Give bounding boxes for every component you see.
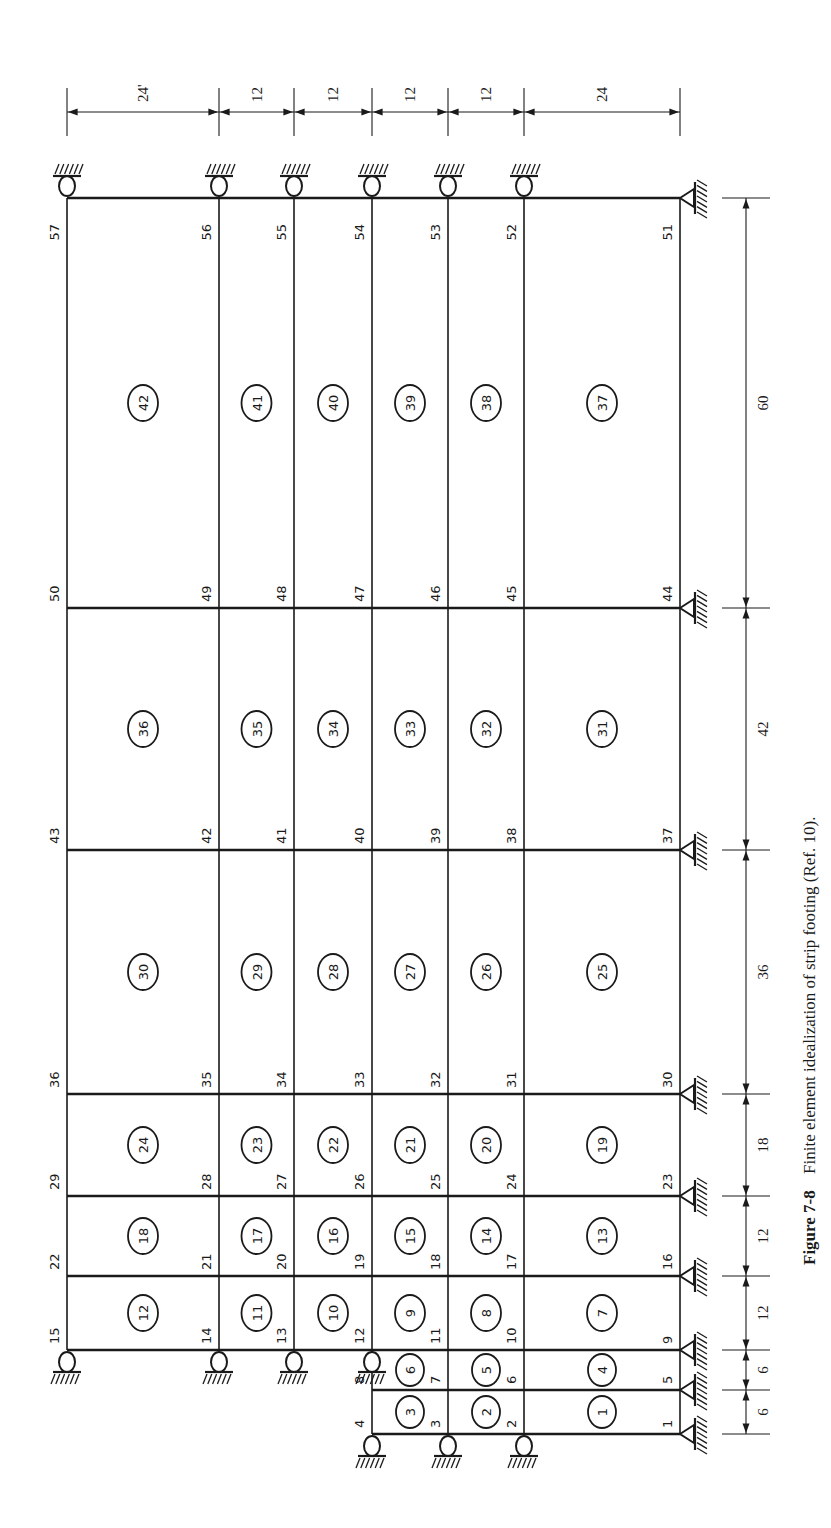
element-number: 29 (250, 964, 265, 981)
element-number: 11 (250, 1305, 265, 1322)
element-marker: 12 (128, 1295, 158, 1331)
element-number: 17 (250, 1228, 265, 1245)
element-marker: 32 (471, 711, 501, 747)
element-marker: 42 (128, 385, 158, 421)
element-marker: 20 (471, 1127, 501, 1163)
element-number: 23 (250, 1137, 265, 1154)
node-label: 31 (504, 1071, 519, 1088)
dimension-label: 12 (478, 87, 494, 102)
element-marker: 9 (395, 1295, 425, 1331)
dimension-label: 24 (594, 87, 610, 103)
element-number: 35 (250, 721, 265, 738)
pin-support-icon (680, 1372, 707, 1410)
element-number: 12 (136, 1305, 151, 1322)
node-label: 46 (428, 585, 443, 602)
element-number: 1 (595, 1408, 610, 1416)
element-number: 6 (403, 1366, 418, 1374)
element-marker: 37 (587, 385, 617, 421)
node-label: 12 (352, 1327, 367, 1344)
node-label: 35 (199, 1071, 214, 1088)
element-number: 9 (403, 1309, 418, 1317)
element-marker: 10 (318, 1295, 348, 1331)
node-label: 40 (352, 827, 367, 844)
element-number: 25 (595, 964, 610, 981)
element-marker: 23 (242, 1127, 272, 1163)
pin-support-icon (680, 180, 707, 218)
dimension-label: 12 (755, 1306, 771, 1321)
element-number: 41 (250, 395, 265, 412)
element-number: 32 (479, 721, 494, 738)
node-label: 14 (199, 1327, 214, 1344)
node-label: 28 (199, 1173, 214, 1190)
node-label: 26 (352, 1173, 367, 1190)
node-label: 11 (428, 1327, 443, 1344)
dimension-label: 12 (402, 87, 418, 102)
element-marker: 3 (396, 1396, 424, 1428)
roller-support-icon (51, 1352, 81, 1384)
roller-support-icon (358, 164, 388, 196)
element-marker: 26 (471, 954, 501, 990)
dimension-label: 24' (135, 84, 151, 102)
element-marker: 36 (128, 711, 158, 747)
node-label: 25 (428, 1173, 443, 1190)
right-dimension-chain: 60423618121266 (722, 198, 771, 1434)
element-marker: 35 (242, 711, 272, 747)
roller-support-icon (432, 1436, 462, 1468)
dimension-label: 60 (755, 396, 771, 411)
element-marker: 24 (128, 1127, 158, 1163)
node-label: 27 (274, 1173, 289, 1190)
node-label: 2 (504, 1420, 519, 1428)
pin-support-icon (680, 1332, 707, 1370)
element-marker: 15 (395, 1218, 425, 1254)
mesh-grid (67, 198, 680, 1434)
element-marker: 38 (471, 385, 501, 421)
element-marker: 31 (587, 711, 617, 747)
element-marker: 17 (242, 1218, 272, 1254)
element-marker: 28 (318, 954, 348, 990)
node-label: 41 (274, 827, 289, 844)
node-label: 53 (428, 224, 443, 241)
element-number: 38 (479, 395, 494, 412)
roller-support-icon (510, 164, 540, 196)
node-label: 36 (47, 1071, 62, 1088)
node-label: 49 (199, 585, 214, 602)
node-label: 30 (660, 1071, 675, 1088)
element-number: 22 (326, 1137, 341, 1154)
pin-support-icon (680, 1076, 707, 1114)
element-marker: 33 (395, 711, 425, 747)
node-label: 5 (660, 1376, 675, 1384)
element-number: 5 (479, 1366, 494, 1374)
pin-support-icon (680, 1178, 707, 1216)
boundary-supports (51, 164, 707, 1468)
element-number: 2 (479, 1408, 494, 1416)
node-label: 47 (352, 585, 367, 602)
element-number: 26 (479, 964, 494, 981)
element-marker: 25 (587, 954, 617, 990)
element-number: 7 (595, 1309, 610, 1317)
element-marker: 34 (318, 711, 348, 747)
finite-element-mesh-diagram: 24'121212122460423618121266 424140393837… (0, 0, 831, 1528)
node-label: 3 (428, 1420, 443, 1428)
dimension-label: 12 (249, 87, 265, 102)
dimension-label: 42 (755, 722, 771, 737)
caption-line: Figure 7-8 Finite element idealization o… (800, 817, 819, 1265)
node-label: 1 (660, 1420, 675, 1428)
node-label: 21 (199, 1253, 214, 1270)
node-label: 42 (199, 827, 214, 844)
node-label: 43 (47, 827, 62, 844)
node-label: 24 (504, 1173, 519, 1190)
node-label: 6 (504, 1376, 519, 1384)
caption-text: Finite element idealization of strip foo… (800, 817, 819, 1174)
roller-support-icon (356, 1436, 386, 1468)
node-label: 56 (199, 224, 214, 241)
element-number: 36 (136, 721, 151, 738)
roller-support-icon (508, 1436, 538, 1468)
node-label: 16 (660, 1253, 675, 1270)
roller-support-icon (434, 164, 464, 196)
element-number: 27 (403, 964, 418, 981)
pin-support-icon (680, 1258, 707, 1296)
node-label: 18 (428, 1253, 443, 1270)
dimension-label: 36 (755, 964, 771, 980)
dimension-label: 6 (755, 1366, 771, 1374)
element-marker: 1 (588, 1396, 616, 1428)
